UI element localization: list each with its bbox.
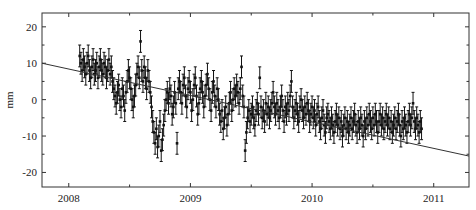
y-tick-label: -10 [22, 130, 37, 142]
y-tick-label: -20 [22, 166, 37, 178]
x-tick-label: 2011 [423, 192, 445, 204]
x-tick-label: 2010 [301, 192, 324, 204]
chart-background [0, 0, 476, 210]
y-tick-label: 0 [32, 94, 38, 106]
time-series-chart: 2008200920102011 20100-10-20 mm [0, 0, 476, 210]
y-axis-label: mm [3, 91, 15, 109]
y-tick-label: 10 [26, 57, 38, 69]
x-tick-label: 2008 [58, 192, 81, 204]
x-tick-label: 2009 [179, 192, 202, 204]
y-tick-label: 20 [26, 21, 38, 33]
